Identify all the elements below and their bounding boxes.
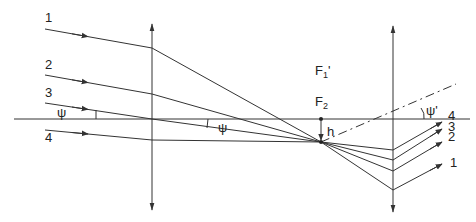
ray-in-label-3: 3 — [45, 85, 52, 100]
ray-1 — [45, 29, 442, 190]
ray-in-label-2: 2 — [45, 57, 52, 72]
optics-diagram: 1 2 3 4 ψ ψ F1' F2 h ψ' 4 3 2 1 — [0, 0, 476, 222]
ray-2 — [45, 75, 442, 171]
ray-out-label-2: 2 — [448, 129, 455, 144]
psi-prime-label: ψ' — [426, 103, 438, 118]
focal-point-f2 — [319, 117, 323, 121]
diagram-svg: 1 2 3 4 ψ ψ F1' F2 h ψ' 4 3 2 1 — [0, 0, 476, 222]
f2-label: F2 — [315, 94, 328, 111]
psi-mid-label: ψ — [218, 120, 227, 135]
ray-4 — [45, 122, 442, 150]
psi-prime-arc — [421, 108, 424, 119]
ray-in-label-4: 4 — [45, 130, 52, 145]
convergence-point — [319, 140, 323, 144]
f1-prime-label: F1' — [315, 63, 330, 80]
h-label: h — [327, 124, 334, 139]
ray-3 — [45, 103, 442, 160]
ray-in-label-1: 1 — [45, 10, 52, 25]
ray-out-label-1: 1 — [450, 155, 457, 170]
ray-arrowheads-out — [430, 122, 442, 170]
psi-left-label: ψ — [57, 105, 66, 120]
